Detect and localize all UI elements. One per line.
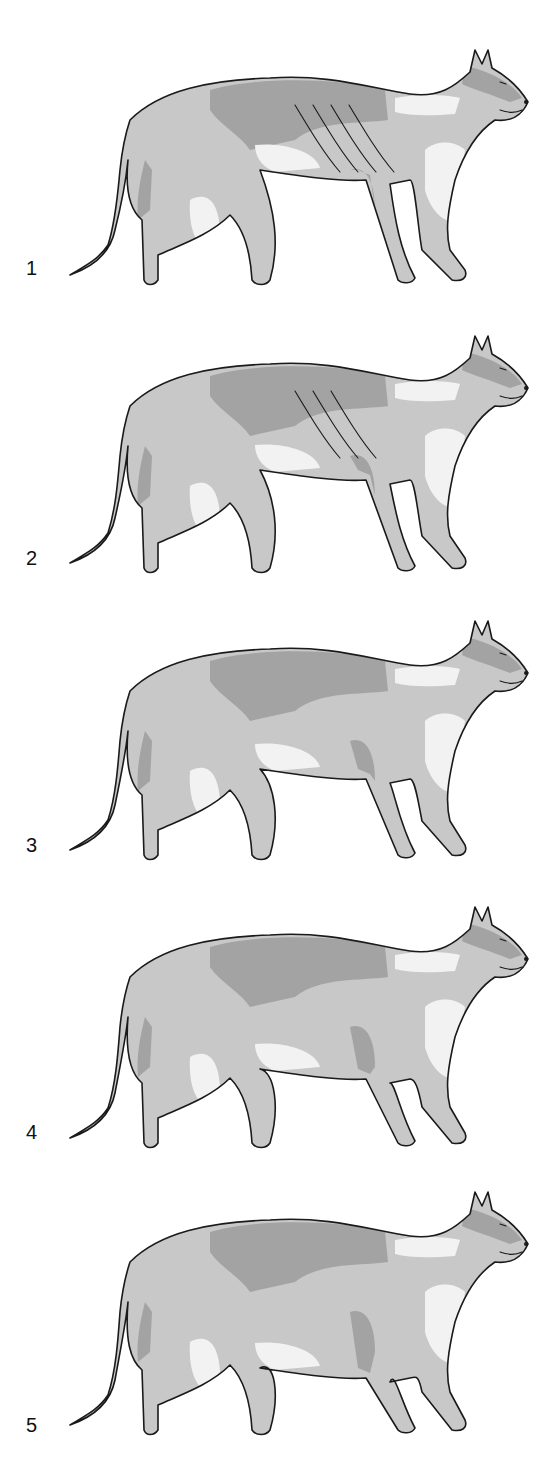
cat-panel: 4	[0, 893, 553, 1183]
stage-number-label: 3	[26, 835, 37, 855]
cat-panel: 5	[0, 1180, 553, 1470]
stage-number-label: 5	[26, 1415, 37, 1435]
stage-number-label: 1	[26, 258, 37, 278]
stage-number-label: 4	[26, 1122, 37, 1142]
stage-number-label: 2	[26, 548, 37, 568]
cat-panel: 1	[0, 30, 553, 320]
cat-illustration	[70, 605, 540, 895]
cat-panel: 2	[0, 318, 553, 608]
cat-illustration	[70, 1180, 540, 1470]
cat-panel: 3	[0, 605, 553, 895]
cat-illustration	[70, 893, 540, 1183]
cat-illustration	[70, 30, 540, 320]
cat-illustration	[70, 318, 540, 608]
